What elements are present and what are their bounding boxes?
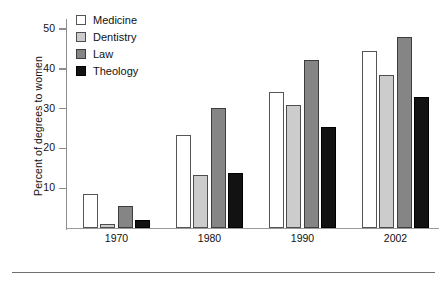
x-axis-line	[66, 228, 439, 229]
y-axis-tick	[59, 28, 66, 29]
legend-item-law: Law	[76, 46, 138, 62]
bottom-divider-rule	[12, 272, 435, 273]
bar-medicine-1980	[176, 135, 191, 228]
y-axis-tick-label: 20	[29, 142, 55, 152]
dentistry-swatch-icon	[76, 32, 86, 42]
y-axis-tick-label: 10	[29, 182, 55, 192]
y-axis-tick	[59, 188, 66, 189]
bar-dentistry-1970	[100, 224, 115, 228]
bar-theology-1980	[228, 173, 243, 228]
x-axis-label-1990: 1990	[263, 232, 343, 244]
bar-dentistry-1990	[286, 105, 301, 228]
legend-label-theology: Theology	[93, 65, 138, 77]
bar-law-2002	[397, 37, 412, 228]
bar-medicine-1990	[269, 92, 284, 228]
y-axis-tick	[59, 68, 66, 69]
bar-chart-figure: Percent of degrees to women 1020304050 1…	[0, 0, 447, 282]
medicine-swatch-icon	[76, 15, 86, 25]
y-axis-tick-label: 40	[29, 63, 55, 73]
legend-label-dentistry: Dentistry	[93, 31, 136, 43]
legend-label-law: Law	[93, 48, 113, 60]
bar-theology-1970	[135, 220, 150, 228]
x-axis-label-2002: 2002	[356, 232, 436, 244]
bar-medicine-1970	[83, 194, 98, 228]
theology-swatch-icon	[76, 66, 86, 76]
legend-item-theology: Theology	[76, 63, 138, 79]
bar-dentistry-1980	[193, 175, 208, 228]
legend-label-medicine: Medicine	[93, 14, 137, 26]
x-axis-label-1970: 1970	[77, 232, 157, 244]
y-axis-tick-label: 30	[29, 103, 55, 113]
bar-law-1980	[211, 108, 226, 228]
bar-law-1990	[304, 60, 319, 228]
bar-medicine-2002	[362, 51, 377, 228]
y-axis-tick-label: 50	[29, 23, 55, 33]
bar-theology-2002	[414, 97, 429, 228]
chart-legend: MedicineDentistryLawTheology	[76, 12, 138, 80]
y-axis-title: Percent of degrees to women	[32, 26, 44, 226]
legend-item-medicine: Medicine	[76, 12, 138, 28]
bar-dentistry-2002	[379, 75, 394, 228]
y-axis-tick	[59, 108, 66, 109]
legend-item-dentistry: Dentistry	[76, 29, 138, 45]
bar-theology-1990	[321, 127, 336, 229]
x-axis-label-1980: 1980	[170, 232, 250, 244]
law-swatch-icon	[76, 49, 86, 59]
y-axis-tick	[59, 148, 66, 149]
bar-law-1970	[118, 206, 133, 228]
